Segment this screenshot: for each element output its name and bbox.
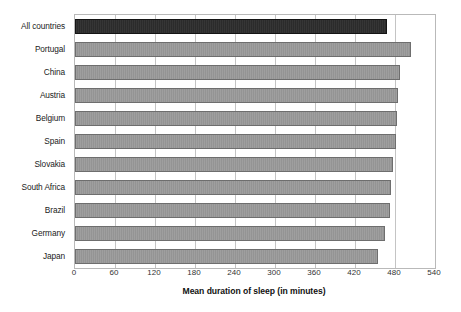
category-axis-labels: All countriesPortugalChinaAustriaBelgium… [0, 14, 70, 267]
category-label: Belgium [0, 106, 70, 129]
bar-row [75, 199, 435, 222]
x-tick-label: 60 [110, 268, 119, 277]
bar[interactable] [75, 203, 390, 217]
x-tick-label: 480 [387, 268, 400, 277]
x-tick-label: 420 [347, 268, 360, 277]
category-label: All countries [0, 14, 70, 37]
bar-row [75, 15, 435, 38]
bar[interactable] [75, 180, 391, 194]
x-axis-tick-labels: 060120180240300360420480540 [74, 268, 436, 282]
category-label: Germany [0, 221, 70, 244]
bar[interactable] [75, 42, 411, 56]
bar-row [75, 176, 435, 199]
bar[interactable] [75, 88, 398, 102]
bar-row [75, 130, 435, 153]
x-tick-label: 300 [267, 268, 280, 277]
bar[interactable] [75, 226, 385, 240]
bar-row [75, 245, 435, 268]
category-label: Slovakia [0, 152, 70, 175]
category-label: Portugal [0, 37, 70, 60]
x-tick-label: 120 [147, 268, 160, 277]
category-label: Japan [0, 244, 70, 267]
x-tick-label: 180 [187, 268, 200, 277]
bar-row [75, 84, 435, 107]
x-tick-label: 0 [72, 268, 76, 277]
plot-area [74, 14, 436, 269]
bar-row [75, 38, 435, 61]
x-tick-label: 360 [307, 268, 320, 277]
bar[interactable] [75, 249, 378, 263]
category-label: Spain [0, 129, 70, 152]
bar-chart: All countriesPortugalChinaAustriaBelgium… [0, 0, 461, 312]
bar[interactable] [75, 65, 400, 79]
bar-row [75, 222, 435, 245]
category-label: China [0, 60, 70, 83]
x-axis-title: Mean duration of sleep (in minutes) [74, 286, 434, 296]
bar[interactable] [75, 19, 387, 33]
bar[interactable] [75, 134, 396, 148]
category-label: Austria [0, 83, 70, 106]
bar-row [75, 61, 435, 84]
bar[interactable] [75, 157, 393, 171]
x-tick-label: 540 [427, 268, 440, 277]
bar[interactable] [75, 111, 397, 125]
bar-row [75, 153, 435, 176]
bar-row [75, 107, 435, 130]
bar-series [75, 15, 435, 268]
category-label: South Africa [0, 175, 70, 198]
x-tick-label: 240 [227, 268, 240, 277]
category-label: Brazil [0, 198, 70, 221]
